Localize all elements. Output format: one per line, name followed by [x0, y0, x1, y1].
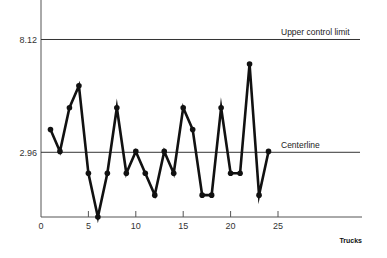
data-point	[67, 105, 73, 111]
control-chart: 0510152025 Upper control limitCenterline…	[0, 0, 387, 258]
y-tick-label: 8.12	[19, 35, 37, 45]
x-tick-label: 5	[86, 221, 91, 231]
x-axis-title: Trucks	[339, 237, 362, 244]
data-point	[161, 149, 167, 155]
data-point	[266, 149, 272, 155]
x-tick-label: 0	[38, 221, 43, 231]
data-point	[124, 170, 130, 176]
data-point	[171, 170, 177, 176]
data-point	[142, 170, 148, 176]
data-point	[209, 192, 215, 198]
data-point	[190, 127, 196, 133]
data-point	[199, 192, 205, 198]
x-ticks: 0510152025	[38, 211, 283, 231]
data-point	[57, 149, 63, 155]
data-point	[114, 105, 120, 111]
y-tick-labels: 8.122.96	[19, 35, 37, 158]
centerline-label: Centerline	[281, 140, 320, 150]
data-point	[95, 214, 101, 220]
x-tick-label: 15	[178, 221, 188, 231]
data-point	[152, 192, 158, 198]
x-tick-label: 20	[226, 221, 236, 231]
data-series	[48, 61, 272, 220]
data-point	[86, 170, 92, 176]
data-point	[76, 83, 82, 89]
data-point	[180, 105, 186, 111]
data-point	[228, 170, 234, 176]
data-point	[247, 61, 253, 67]
data-point	[105, 170, 111, 176]
x-tick-label: 10	[131, 221, 141, 231]
x-tick-label: 25	[273, 221, 283, 231]
data-point	[256, 192, 262, 198]
upper-control-limit-label: Upper control limit	[281, 27, 350, 37]
data-point	[218, 105, 224, 111]
data-point	[237, 170, 243, 176]
series-line	[50, 64, 268, 217]
data-point	[133, 149, 139, 155]
y-tick-label: 2.96	[19, 148, 37, 158]
reference-lines: Upper control limitCenterline	[41, 27, 360, 152]
data-point	[48, 127, 54, 133]
